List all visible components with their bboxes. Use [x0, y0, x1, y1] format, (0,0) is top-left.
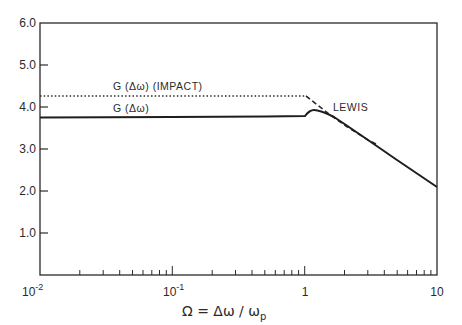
y-tick-6: 6.0 [19, 16, 36, 30]
x-tick-3: 10 [430, 285, 444, 299]
y-tick-1: 1.0 [19, 226, 36, 240]
series-g-line [40, 110, 437, 187]
annotation-g: G (Δω) [113, 102, 149, 114]
annotation-lewis: LEWIS [333, 101, 368, 113]
y-ticks [40, 65, 48, 233]
y-tick-labels: 1.0 2.0 3.0 4.0 5.0 6.0 [19, 16, 36, 240]
x-tick-labels: 10-2 10-1 1 10 [22, 282, 444, 299]
x-tick-1: 10-1 [163, 282, 184, 299]
x-tick-2: 1 [302, 285, 309, 299]
y-tick-5: 5.0 [19, 58, 36, 72]
y-tick-4: 4.0 [19, 100, 36, 114]
x-axis-label: Ω = Δω / ωp [182, 303, 266, 322]
y-tick-3: 3.0 [19, 142, 36, 156]
chart: 1.0 2.0 3.0 4.0 5.0 6.0 [0, 0, 462, 325]
y-tick-2: 2.0 [19, 184, 36, 198]
x-tick-0: 10-2 [22, 282, 43, 299]
x-ticks [80, 266, 431, 275]
plot-frame [40, 23, 437, 275]
annotation-impact: G (Δω) (IMPACT) [113, 80, 203, 92]
